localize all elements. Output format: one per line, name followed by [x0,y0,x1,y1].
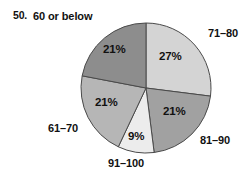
value-label-81-90: 21% [163,106,186,118]
pie-chart-figure: 50. 60 or below 71–80 81–90 91–100 61–70… [0,0,252,176]
category-label-61-70: 61–70 [48,123,78,134]
pie-slice-group [81,23,211,153]
category-label-60-or-below: 60 or below [33,11,92,22]
value-label-71-80: 27% [159,51,182,63]
value-label-60-or-below: 21% [103,44,126,56]
value-label-91-100: 9% [128,131,144,143]
category-label-71-80: 71–80 [208,28,238,39]
value-label-61-70: 21% [95,97,118,109]
problem-number: 50. [13,10,27,21]
category-label-91-100: 91–100 [108,158,144,169]
category-label-81-90: 81–90 [200,135,230,146]
